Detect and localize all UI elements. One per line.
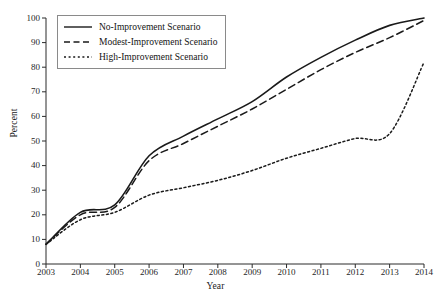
legend-label: No-Improvement Scenario [99, 22, 201, 32]
y-tick-label: 40 [14, 161, 40, 170]
y-tick-label: 90 [14, 38, 40, 47]
series-line-dotted [46, 62, 424, 244]
x-axis-title: Year [0, 281, 431, 291]
y-tick-label: 20 [14, 210, 40, 219]
y-tick-label: 100 [14, 14, 40, 23]
legend-item-modest-improvement: Modest-Improvement Scenario [63, 34, 217, 49]
x-tick-label: 2004 [63, 268, 97, 277]
chart-legend: No-Improvement Scenario Modest-Improveme… [57, 15, 226, 69]
legend-label: High-Improvement Scenario [99, 52, 208, 62]
x-tick-label: 2006 [132, 268, 166, 277]
y-tick-label: 60 [14, 112, 40, 121]
x-tick-label: 2012 [338, 268, 372, 277]
legend-item-high-improvement: High-Improvement Scenario [63, 49, 217, 64]
y-tick-label: 70 [14, 87, 40, 96]
x-tick-label: 2009 [235, 268, 269, 277]
y-tick-label: 50 [14, 137, 40, 146]
y-tick-label: 30 [14, 186, 40, 195]
legend-item-no-improvement: No-Improvement Scenario [63, 19, 217, 34]
y-axis-tick-labels: 0102030405060708090100 [0, 0, 40, 301]
legend-line-dotted-icon [63, 52, 93, 62]
x-tick-label: 2011 [304, 268, 338, 277]
x-tick-label: 2005 [98, 268, 132, 277]
x-tick-label: 2014 [407, 268, 438, 277]
legend-line-solid-icon [63, 22, 93, 32]
x-tick-label: 2013 [373, 268, 407, 277]
y-tick-label: 10 [14, 235, 40, 244]
x-tick-label: 2007 [166, 268, 200, 277]
x-tick-label: 2010 [270, 268, 304, 277]
legend-line-dashed-icon [63, 37, 93, 47]
x-tick-label: 2003 [29, 268, 63, 277]
x-tick-label: 2008 [201, 268, 235, 277]
legend-label: Modest-Improvement Scenario [99, 37, 217, 47]
y-tick-label: 80 [14, 63, 40, 72]
